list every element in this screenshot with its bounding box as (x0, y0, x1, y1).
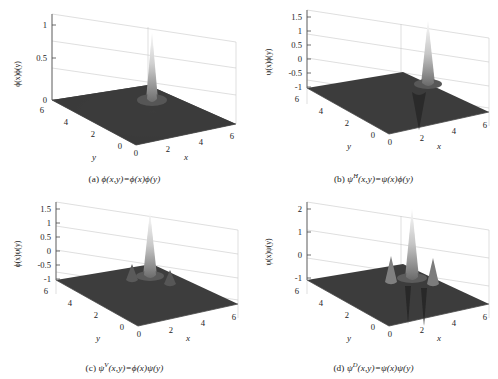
caption-a: (a) ϕ(x,y)=ϕ(x)ϕ(y) (0, 172, 249, 184)
surface-peak-a2 (147, 33, 157, 102)
panel-d: 2 1 0 -1 ψ(x)ψ(y) 6 4 2 0 0 2 4 6 y x (d… (249, 190, 498, 379)
caption-c-rest: (x,y)=ϕ(x)ψ(y) (108, 363, 163, 373)
ztick-d-0: -1 (295, 273, 302, 283)
ytick-a-0: 0 (118, 141, 122, 151)
surface-peak-c2 (144, 213, 156, 278)
zlabel-c: ϕ(x)ψ(y) (13, 240, 22, 267)
ztick-c-0: -1 (44, 274, 51, 284)
surface-peak-d2 (406, 209, 418, 280)
caption-b: (b) ψH(x,y)=ψ(x)ϕ(y) (249, 172, 498, 184)
surface-plot-a: 0 0.5 1 ϕ(x)ϕ(y) 6 4 2 0 0 2 4 6 y x (0, 0, 249, 166)
ztick-b-4: 1 (298, 26, 302, 36)
zlabel-a: ϕ(x)ϕ(y) (13, 61, 22, 87)
surface-plot-c: 1.5 1 0.5 0 -0.5 -1 ϕ(x)ψ(y) 6 4 2 0 0 2… (0, 190, 249, 356)
caption-b-prefix: (b) (334, 174, 345, 184)
xlabel-a: x (183, 152, 188, 162)
ztick-d-1: 0 (298, 250, 302, 260)
caption-c: (c) ψV(x,y)=ϕ(x)ψ(y) (0, 361, 249, 373)
xtick-d-4: 4 (452, 318, 457, 328)
ytick-d-2: 2 (345, 310, 349, 320)
surface-plot-d: 2 1 0 -1 ψ(x)ψ(y) 6 4 2 0 0 2 4 6 y x (249, 190, 498, 356)
ytick-b-6: 6 (295, 94, 300, 104)
ztick-b-2: 0 (298, 54, 302, 64)
panel-c: 1.5 1 0.5 0 -0.5 -1 ϕ(x)ψ(y) 6 4 2 0 0 2… (0, 190, 249, 379)
ytick-c-4: 4 (68, 298, 73, 308)
surface-lobe-d-right (427, 258, 439, 286)
ztick-a-2: 1 (43, 20, 47, 30)
ztick-c-5: 1.5 (40, 204, 51, 214)
xtick-c-2: 2 (169, 325, 173, 335)
ylabel-d: y (346, 333, 351, 343)
caption-c-prefix: (c) (86, 363, 97, 373)
caption-a-prefix: (a) (89, 174, 100, 184)
xtick-d-2: 2 (420, 325, 424, 335)
xtick-b-2: 2 (420, 133, 424, 143)
caption-d: (d) ψD(x,y)=ψ(x)ψ(y) (249, 361, 498, 373)
plot-b: 1.5 1 0.5 0 -0.5 -1 ψ(x)ϕ(y) 6 4 2 0 0 2… (249, 0, 498, 166)
zlabel-b: ψ(x)ϕ(y) (264, 48, 273, 75)
zlabel-d: ψ(x)ψ(y) (264, 238, 273, 266)
ztick-b-3: 0.5 (291, 40, 302, 50)
ztick-b-1: -0.5 (288, 68, 302, 78)
xtick-a-2: 2 (166, 144, 170, 154)
ytick-d-0: 0 (371, 322, 375, 332)
ztick-d-2: 1 (298, 227, 302, 237)
ztick-c-4: 1 (47, 218, 51, 228)
ztick-c-2: 0 (47, 246, 51, 256)
surface-plot-b: 1.5 1 0.5 0 -0.5 -1 ψ(x)ϕ(y) 6 4 2 0 0 2… (249, 0, 498, 166)
figure-grid: 0 0.5 1 ϕ(x)ϕ(y) 6 4 2 0 0 2 4 6 y x (0, 0, 498, 379)
xlabel-b: x (436, 141, 441, 151)
ztick-a-0: 0 (43, 95, 47, 105)
plot-c: 1.5 1 0.5 0 -0.5 -1 ϕ(x)ψ(y) 6 4 2 0 0 2… (0, 190, 249, 356)
ytick-d-6: 6 (295, 286, 300, 296)
xtick-a-4: 4 (199, 137, 204, 147)
ytick-b-4: 4 (319, 106, 324, 116)
ytick-a-6: 6 (40, 105, 45, 115)
xtick-d-0: 0 (388, 329, 392, 339)
ztick-c-3: 0.5 (40, 232, 51, 242)
ztick-b-5: 1.5 (291, 12, 302, 22)
xlabel-c: x (185, 333, 190, 343)
ytick-c-6: 6 (44, 286, 49, 296)
ylabel-c: y (95, 333, 100, 343)
ylabel-b: y (346, 141, 351, 151)
ztick-d-3: 2 (298, 204, 302, 214)
xtick-d-6: 6 (483, 312, 488, 322)
panel-a: 0 0.5 1 ϕ(x)ϕ(y) 6 4 2 0 0 2 4 6 y x (0, 0, 249, 190)
xlabel-d: x (436, 333, 441, 343)
xtick-a-0: 0 (134, 148, 138, 158)
ylabel-a: y (91, 152, 96, 162)
xtick-c-6: 6 (232, 312, 237, 322)
plot-a: 0 0.5 1 ϕ(x)ϕ(y) 6 4 2 0 0 2 4 6 y x (0, 0, 249, 166)
ytick-b-2: 2 (345, 118, 349, 128)
ytick-c-0: 0 (120, 322, 124, 332)
ytick-a-2: 2 (91, 129, 95, 139)
ytick-c-2: 2 (94, 310, 98, 320)
caption-d-prefix: (d) (333, 363, 344, 373)
ztick-c-1: -0.5 (37, 260, 51, 270)
xtick-c-0: 0 (137, 329, 141, 339)
caption-a-rest: (x,y)=ϕ(x)ϕ(y) (106, 174, 160, 184)
ytick-a-4: 4 (64, 117, 69, 127)
ytick-d-4: 4 (319, 298, 324, 308)
ztick-b-0: -1 (295, 82, 302, 92)
panel-b: 1.5 1 0.5 0 -0.5 -1 ψ(x)ϕ(y) 6 4 2 0 0 2… (249, 0, 498, 190)
ztick-a-1: 0.5 (36, 53, 47, 63)
caption-b-rest: (x,y)=ψ(x)ϕ(y) (358, 174, 413, 184)
xtick-b-6: 6 (483, 120, 488, 130)
caption-d-rest: (x,y)=ψ(x)ψ(y) (358, 363, 414, 373)
xtick-b-4: 4 (452, 126, 457, 136)
xtick-a-6: 6 (230, 131, 235, 141)
ytick-b-0: 0 (371, 130, 375, 140)
plot-d: 2 1 0 -1 ψ(x)ψ(y) 6 4 2 0 0 2 4 6 y x (249, 190, 498, 356)
xtick-c-4: 4 (201, 318, 206, 328)
xtick-b-0: 0 (388, 137, 392, 147)
